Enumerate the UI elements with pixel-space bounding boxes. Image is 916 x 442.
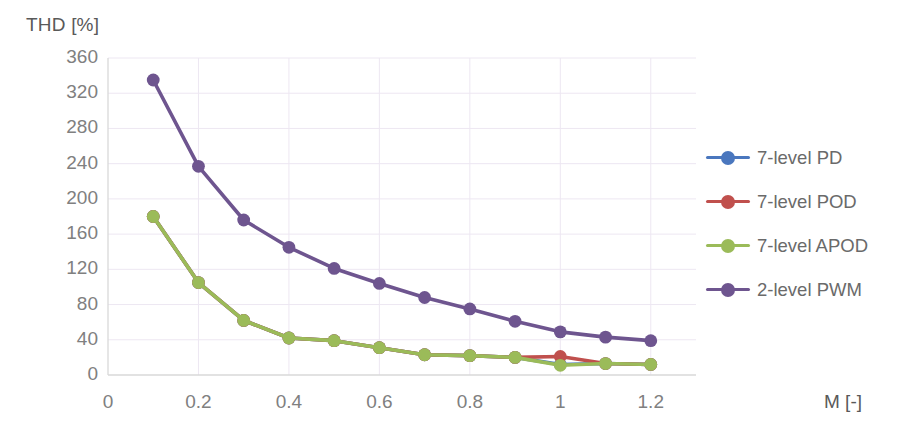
data-point-marker — [599, 357, 612, 370]
chart-legend: 7-level PD7-level POD7-level APOD2-level… — [706, 136, 906, 312]
data-point-marker — [328, 334, 341, 347]
data-point-marker — [644, 334, 657, 347]
legend-item-label: 2-level PWM — [757, 279, 862, 301]
data-point-marker — [373, 277, 386, 290]
data-point-marker — [237, 214, 250, 227]
data-point-marker — [192, 276, 205, 289]
data-point-marker — [554, 359, 567, 372]
data-point-marker — [418, 291, 431, 304]
series-2-level-pwm — [147, 74, 657, 347]
data-point-marker — [328, 262, 341, 275]
data-point-marker — [463, 349, 476, 362]
data-point-marker — [509, 351, 522, 364]
legend-item[interactable]: 7-level POD — [706, 180, 906, 224]
legend-marker-icon — [706, 195, 750, 209]
legend-marker-icon — [706, 151, 750, 165]
data-point-marker — [192, 160, 205, 173]
legend-item[interactable]: 7-level APOD — [706, 224, 906, 268]
data-point-marker — [463, 303, 476, 316]
data-point-marker — [283, 332, 296, 345]
data-point-marker — [147, 74, 160, 87]
series-line — [153, 80, 651, 341]
data-point-marker — [509, 315, 522, 328]
data-point-marker — [147, 210, 160, 223]
data-point-marker — [554, 325, 567, 338]
legend-item-label: 7-level APOD — [757, 235, 868, 257]
data-point-marker — [644, 358, 657, 371]
legend-item-label: 7-level PD — [757, 147, 842, 169]
data-point-marker — [418, 348, 431, 361]
legend-item[interactable]: 2-level PWM — [706, 268, 906, 312]
data-point-marker — [237, 314, 250, 327]
legend-item-label: 7-level POD — [757, 191, 857, 213]
legend-marker-icon — [706, 239, 750, 253]
thd-vs-modulation-index-chart: THD [%] M [-] 04080120160200240280320360… — [0, 0, 916, 442]
legend-item[interactable]: 7-level PD — [706, 136, 906, 180]
legend-marker-icon — [706, 283, 750, 297]
data-point-marker — [283, 241, 296, 254]
data-point-marker — [373, 341, 386, 354]
data-point-marker — [599, 331, 612, 344]
